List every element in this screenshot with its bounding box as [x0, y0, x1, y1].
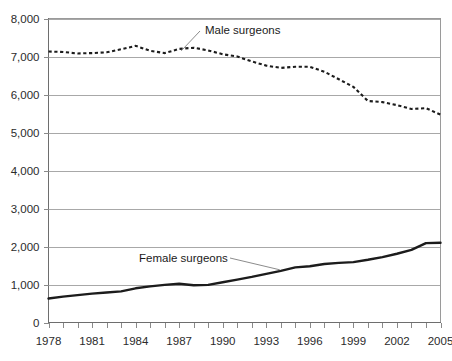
- x-axis-labels-group: 1978198119841987199019931996199920022005: [36, 335, 452, 347]
- x-axis-tick-label: 2002: [384, 335, 410, 347]
- plot-area-border: [49, 19, 441, 323]
- x-axis-tick-label: 1987: [166, 335, 192, 347]
- series-line-female-surgeons: [49, 243, 441, 299]
- male-surgeons-label: Male surgeons: [205, 24, 281, 36]
- y-tickmarks-group: [44, 20, 49, 324]
- x-axis-tick-label: 1978: [36, 335, 62, 347]
- series-line-male-surgeons: [49, 46, 441, 115]
- x-axis-tick-label: 1996: [297, 335, 323, 347]
- y-axis-tick-label: 7,000: [11, 51, 40, 63]
- female-surgeons-label: Female surgeons: [139, 252, 228, 264]
- y-axis-tick-label: 4,000: [11, 165, 40, 177]
- x-axis-tick-label: 1993: [253, 335, 279, 347]
- line-chart: 01,0002,0003,0004,0005,0006,0007,0008,00…: [0, 0, 452, 361]
- y-axis-labels-group: 01,0002,0003,0004,0005,0006,0007,0008,00…: [11, 13, 40, 329]
- y-axis-tick-label: 8,000: [11, 13, 40, 25]
- female-annotation-leader-line: [230, 258, 280, 270]
- chart-container: 01,0002,0003,0004,0005,0006,0007,0008,00…: [0, 0, 452, 361]
- x-tickmarks-group: [50, 323, 442, 328]
- y-axis-tick-label: 1,000: [11, 279, 40, 291]
- x-axis-tick-label: 1999: [341, 335, 367, 347]
- y-axis-tick-label: 6,000: [11, 89, 40, 101]
- y-axis-tick-label: 5,000: [11, 127, 40, 139]
- x-axis-tick-label: 1981: [79, 335, 105, 347]
- x-axis-tick-label: 1984: [123, 335, 149, 347]
- y-axis-tick-label: 3,000: [11, 203, 40, 215]
- y-axis-tick-label: 2,000: [11, 241, 40, 253]
- y-axis-tick-label: 0: [33, 317, 39, 329]
- x-axis-tick-label: 1990: [210, 335, 236, 347]
- x-axis-tick-label: 2005: [428, 335, 452, 347]
